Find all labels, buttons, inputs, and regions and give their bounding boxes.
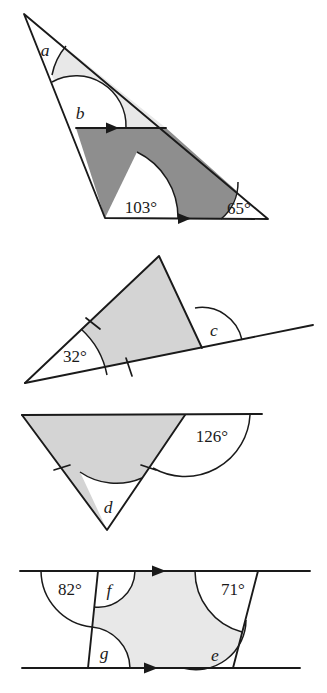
- figure-4-quadrilateral-between-parallel-lines: 82° f 71° g e: [20, 566, 310, 674]
- angle-c-label: c: [210, 320, 218, 340]
- figure-1-triangle-with-parallel-line: a b 103° 65°: [24, 14, 268, 224]
- angle-126-label: 126°: [196, 427, 228, 446]
- geometry-diagrams-canvas: a b 103° 65° 32° c: [0, 0, 327, 693]
- angle-d-label: d: [104, 497, 113, 517]
- angle-65-label: 65°: [227, 199, 251, 218]
- figure-3-inverted-isosceles-triangle: d 126°: [22, 414, 262, 530]
- figure-1-angle-b-clear-area: [52, 76, 126, 128]
- figure-2-angle-c-clear-area: [195, 307, 242, 348]
- angle-a-label: a: [41, 40, 50, 60]
- angle-82-label: 82°: [58, 580, 82, 599]
- angle-b-label: b: [76, 103, 85, 123]
- angle-71-label: 71°: [221, 580, 245, 599]
- angle-103-label: 103°: [125, 198, 157, 217]
- angle-32-label: 32°: [63, 347, 87, 366]
- figure-3-extended-top-line: [22, 414, 262, 415]
- figure-2-isosceles-triangle-on-line: 32° c: [25, 256, 313, 383]
- angle-g-label: g: [100, 643, 109, 663]
- geometry-worksheet-page: a b 103° 65° 32° c: [0, 0, 327, 693]
- angle-e-label: e: [211, 645, 219, 665]
